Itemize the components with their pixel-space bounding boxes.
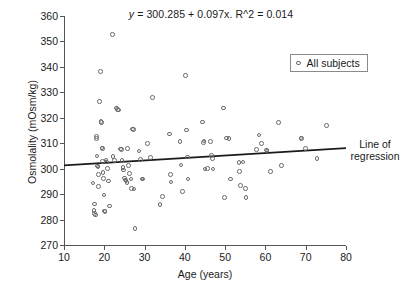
x-tick-label-70: 70 (300, 252, 312, 263)
data-point (208, 139, 213, 144)
data-point (200, 120, 205, 125)
x-axis-title: Age (years) (64, 268, 346, 280)
legend-label-all-subjects: All subjects (307, 57, 360, 69)
data-point (145, 141, 150, 146)
data-point (185, 155, 190, 160)
data-point (299, 136, 304, 141)
data-point (94, 136, 99, 141)
data-point (184, 128, 189, 133)
data-point (259, 141, 264, 146)
x-tick-label-30: 30 (139, 252, 151, 263)
data-point (160, 194, 165, 199)
data-point (167, 132, 172, 137)
y-axis-title: Osmolality (mOsm/kg) (26, 32, 38, 232)
scatter-plot-figure: y = 300.285 + 0.097x. R^2 = 0.014 Osmola… (0, 0, 401, 299)
data-point (119, 147, 124, 152)
data-point (148, 155, 153, 160)
x-tick-40 (185, 246, 186, 250)
data-point (96, 172, 101, 177)
y-tick-label-320: 320 (40, 113, 58, 124)
y-tick-label-340: 340 (40, 62, 58, 73)
data-point (107, 204, 112, 209)
x-tick-label-40: 40 (179, 252, 191, 263)
data-point (93, 213, 98, 218)
y-tick-label-330: 330 (40, 87, 58, 98)
data-point (279, 163, 284, 168)
data-point (180, 189, 185, 194)
y-tick-label-290: 290 (40, 189, 58, 200)
x-tick-label-10: 10 (58, 252, 70, 263)
data-point (222, 195, 227, 200)
x-tick-label-60: 60 (260, 252, 272, 263)
data-point (133, 226, 138, 231)
data-point (254, 147, 259, 152)
data-point (268, 169, 273, 174)
data-point (127, 171, 132, 176)
data-point (105, 166, 110, 171)
caption-fragment (0, 289, 401, 299)
regression-line-annotation: Line of regression (349, 139, 401, 162)
y-tick-label-280: 280 (40, 214, 58, 225)
regression-annotation-line2: regression (349, 151, 401, 163)
data-point (158, 202, 163, 207)
data-point (324, 123, 329, 128)
x-tick-label-80: 80 (340, 252, 352, 263)
data-point (303, 146, 308, 151)
data-point (126, 163, 131, 168)
x-tick-30 (145, 246, 146, 250)
data-point (237, 169, 242, 174)
data-point (96, 184, 101, 189)
data-point (243, 186, 248, 191)
data-point (183, 73, 188, 78)
data-point (205, 166, 210, 171)
x-tick-80 (346, 246, 347, 250)
x-tick-70 (306, 246, 307, 250)
y-tick-label-360: 360 (40, 11, 58, 22)
data-point (106, 179, 111, 184)
data-point (210, 156, 215, 161)
data-point (125, 146, 130, 151)
x-tick-label-20: 20 (98, 252, 110, 263)
y-tick-label-350: 350 (40, 36, 58, 47)
data-point (110, 32, 115, 37)
y-tick-label-310: 310 (40, 138, 58, 149)
x-tick-20 (104, 246, 105, 250)
x-tick-label-50: 50 (219, 252, 231, 263)
x-tick-10 (64, 246, 65, 250)
legend-marker-all-subjects-icon (296, 61, 301, 66)
data-point (103, 209, 108, 214)
data-point (99, 120, 104, 125)
y-tick-label-270: 270 (40, 240, 58, 251)
x-tick-60 (265, 246, 266, 250)
data-point (98, 69, 103, 74)
legend-box: All subjects (290, 54, 368, 72)
data-point (150, 95, 155, 100)
data-point (100, 146, 105, 151)
data-point (138, 157, 143, 162)
data-point (168, 172, 173, 177)
x-axis-line (64, 245, 346, 246)
plot-area: 270280290300310320330340350360 102030405… (64, 16, 345, 245)
data-point (97, 99, 102, 104)
y-tick-label-300: 300 (40, 163, 58, 174)
data-point (276, 120, 281, 125)
data-point (112, 158, 117, 163)
regression-annotation-line1: Line of (349, 139, 401, 151)
data-point (125, 180, 130, 185)
data-point (221, 106, 226, 111)
data-point (131, 127, 136, 132)
x-tick-50 (225, 246, 226, 250)
